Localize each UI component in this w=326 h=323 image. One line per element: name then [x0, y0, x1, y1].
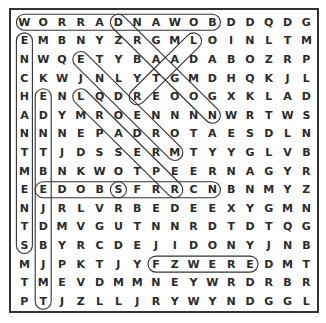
- grid-cell[interactable]: V: [278, 143, 297, 162]
- grid-cell[interactable]: T: [297, 255, 316, 274]
- grid-cell[interactable]: E: [128, 106, 147, 125]
- grid-cell[interactable]: R: [90, 106, 109, 125]
- grid-cell[interactable]: G: [147, 32, 166, 51]
- grid-cell[interactable]: M: [128, 273, 147, 292]
- grid-cell[interactable]: A: [90, 13, 109, 32]
- grid-cell[interactable]: B: [128, 50, 147, 69]
- grid-cell[interactable]: O: [184, 13, 203, 32]
- grid-cell[interactable]: N: [278, 236, 297, 255]
- grid-cell[interactable]: R: [278, 50, 297, 69]
- grid-cell[interactable]: L: [109, 69, 128, 88]
- grid-cell[interactable]: L: [259, 32, 278, 51]
- grid-cell[interactable]: K: [71, 162, 90, 181]
- grid-cell[interactable]: W: [15, 13, 34, 32]
- grid-cell[interactable]: E: [15, 32, 34, 51]
- grid-cell[interactable]: N: [241, 32, 260, 51]
- grid-cell[interactable]: E: [71, 50, 90, 69]
- grid-cell[interactable]: D: [297, 87, 316, 106]
- grid-cell[interactable]: G: [297, 218, 316, 237]
- grid-cell[interactable]: W: [222, 106, 241, 125]
- grid-cell[interactable]: K: [241, 87, 260, 106]
- grid-cell[interactable]: N: [34, 125, 53, 144]
- grid-cell[interactable]: J: [278, 69, 297, 88]
- grid-cell[interactable]: J: [34, 255, 53, 274]
- grid-cell[interactable]: K: [34, 69, 53, 88]
- grid-cell[interactable]: O: [165, 125, 184, 144]
- grid-cell[interactable]: E: [128, 143, 147, 162]
- grid-cell[interactable]: L: [71, 199, 90, 218]
- grid-cell[interactable]: V: [71, 218, 90, 237]
- grid-cell[interactable]: B: [222, 50, 241, 69]
- grid-cell[interactable]: T: [128, 218, 147, 237]
- grid-cell[interactable]: O: [109, 162, 128, 181]
- grid-cell[interactable]: Y: [278, 180, 297, 199]
- grid-cell[interactable]: E: [203, 199, 222, 218]
- grid-cell[interactable]: D: [203, 69, 222, 88]
- grid-cell[interactable]: Y: [165, 292, 184, 311]
- grid-cell[interactable]: S: [109, 180, 128, 199]
- grid-cell[interactable]: N: [90, 69, 109, 88]
- grid-cell[interactable]: D: [109, 87, 128, 106]
- grid-cell[interactable]: D: [222, 13, 241, 32]
- grid-cell[interactable]: J: [259, 236, 278, 255]
- grid-cell[interactable]: K: [259, 69, 278, 88]
- grid-cell[interactable]: Y: [241, 236, 260, 255]
- grid-cell[interactable]: R: [241, 106, 260, 125]
- grid-cell[interactable]: O: [165, 87, 184, 106]
- grid-cell[interactable]: S: [297, 106, 316, 125]
- grid-cell[interactable]: M: [71, 106, 90, 125]
- grid-cell[interactable]: D: [109, 13, 128, 32]
- grid-cell[interactable]: T: [259, 218, 278, 237]
- grid-cell[interactable]: L: [297, 292, 316, 311]
- grid-cell[interactable]: N: [184, 106, 203, 125]
- grid-cell[interactable]: P: [53, 255, 72, 274]
- grid-cell[interactable]: D: [259, 255, 278, 274]
- grid-cell[interactable]: L: [259, 143, 278, 162]
- grid-cell[interactable]: Y: [90, 32, 109, 51]
- grid-cell[interactable]: T: [15, 143, 34, 162]
- grid-cell[interactable]: G: [165, 69, 184, 88]
- grid-cell[interactable]: B: [297, 143, 316, 162]
- grid-cell[interactable]: Q: [241, 69, 260, 88]
- grid-cell[interactable]: D: [241, 218, 260, 237]
- grid-cell[interactable]: W: [184, 292, 203, 311]
- grid-cell[interactable]: Y: [109, 50, 128, 69]
- grid-cell[interactable]: A: [147, 13, 166, 32]
- grid-cell[interactable]: R: [128, 87, 147, 106]
- grid-cell[interactable]: Y: [203, 143, 222, 162]
- grid-cell[interactable]: B: [222, 180, 241, 199]
- grid-cell[interactable]: N: [147, 273, 166, 292]
- grid-cell[interactable]: G: [297, 13, 316, 32]
- grid-cell[interactable]: D: [34, 106, 53, 125]
- grid-cell[interactable]: D: [203, 218, 222, 237]
- grid-cell[interactable]: G: [259, 199, 278, 218]
- grid-cell[interactable]: T: [34, 143, 53, 162]
- grid-cell[interactable]: S: [241, 125, 260, 144]
- grid-cell[interactable]: W: [53, 69, 72, 88]
- grid-cell[interactable]: M: [278, 255, 297, 274]
- grid-cell[interactable]: N: [203, 180, 222, 199]
- grid-cell[interactable]: J: [109, 255, 128, 274]
- grid-cell[interactable]: J: [53, 292, 72, 311]
- grid-cell[interactable]: E: [15, 180, 34, 199]
- grid-cell[interactable]: E: [34, 87, 53, 106]
- grid-cell[interactable]: A: [203, 50, 222, 69]
- grid-cell[interactable]: W: [165, 13, 184, 32]
- grid-cell[interactable]: R: [184, 218, 203, 237]
- grid-cell[interactable]: J: [71, 69, 90, 88]
- grid-cell[interactable]: R: [297, 162, 316, 181]
- grid-cell[interactable]: M: [165, 32, 184, 51]
- grid-cell[interactable]: B: [297, 236, 316, 255]
- grid-cell[interactable]: P: [147, 162, 166, 181]
- grid-cell[interactable]: N: [15, 125, 34, 144]
- grid-cell[interactable]: O: [71, 180, 90, 199]
- grid-cell[interactable]: T: [128, 162, 147, 181]
- grid-cell[interactable]: D: [241, 13, 260, 32]
- grid-cell[interactable]: I: [222, 32, 241, 51]
- grid-cell[interactable]: M: [15, 255, 34, 274]
- grid-cell[interactable]: B: [90, 180, 109, 199]
- grid-cell[interactable]: L: [71, 87, 90, 106]
- grid-cell[interactable]: E: [128, 236, 147, 255]
- grid-cell[interactable]: N: [53, 125, 72, 144]
- grid-cell[interactable]: Z: [71, 292, 90, 311]
